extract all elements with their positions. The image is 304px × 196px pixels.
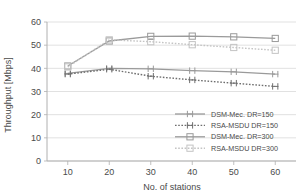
y-axis-ticks: 0102030405060 <box>31 17 47 166</box>
throughput-line-chart: 0102030405060 102030405060 DSM-Mec. DR=1… <box>0 0 304 196</box>
y-axis-title: Throughput [Mbps] <box>3 57 13 133</box>
y-tick-label: 20 <box>31 110 41 120</box>
x-axis-ticks: 102030405060 <box>63 161 281 177</box>
legend-label: DSM-Mec. DR=150 <box>211 110 274 119</box>
data-point <box>106 66 112 72</box>
data-point <box>65 71 71 77</box>
y-tick-label: 10 <box>31 133 41 143</box>
legend-item-2[interactable]: DSM-Mec. DR=300 <box>175 132 274 141</box>
data-point <box>272 83 278 89</box>
chart-canvas: 0102030405060 102030405060 DSM-Mec. DR=1… <box>0 0 304 196</box>
legend-item-3[interactable]: RSA-MSDU DR=300 <box>175 144 278 153</box>
data-point <box>272 47 278 53</box>
data-point <box>272 71 278 77</box>
x-tick-label: 40 <box>187 167 197 177</box>
data-point <box>231 80 237 86</box>
legend-swatch-marker <box>187 111 193 117</box>
data-point <box>148 73 154 79</box>
data-point <box>148 66 154 72</box>
y-tick-label: 60 <box>31 17 41 27</box>
y-tick-label: 50 <box>31 40 41 50</box>
x-axis-title: No. of stations <box>143 182 201 192</box>
data-point <box>231 69 237 75</box>
x-tick-label: 30 <box>146 167 156 177</box>
x-tick-label: 20 <box>104 167 114 177</box>
legend-label: DSM-Mec. DR=300 <box>211 132 274 141</box>
y-tick-label: 0 <box>36 156 41 166</box>
legend-item-1[interactable]: RSA-MSDU DR=150 <box>175 121 278 130</box>
series-line <box>68 68 276 74</box>
chart-legend: DSM-Mec. DR=150RSA-MSDU DR=150DSM-Mec. D… <box>175 110 278 153</box>
series-2 <box>65 33 279 69</box>
data-point <box>189 77 195 83</box>
legend-label: RSA-MSDU DR=300 <box>211 144 278 153</box>
series-line <box>68 40 276 67</box>
data-series <box>65 33 279 90</box>
legend-label: RSA-MSDU DR=150 <box>211 121 278 130</box>
x-tick-label: 10 <box>63 167 73 177</box>
series-3 <box>65 37 279 70</box>
x-tick-label: 50 <box>229 167 239 177</box>
series-line <box>68 36 276 66</box>
y-tick-label: 30 <box>31 87 41 97</box>
legend-swatch-marker <box>187 122 193 128</box>
legend-item-0[interactable]: DSM-Mec. DR=150 <box>175 110 274 119</box>
x-tick-label: 60 <box>270 167 280 177</box>
y-tick-label: 40 <box>31 64 41 74</box>
